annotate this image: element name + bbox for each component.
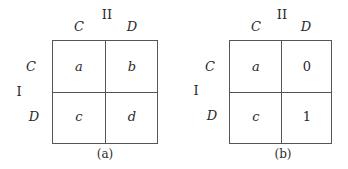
row-strategy-a-d: D	[24, 110, 44, 124]
col-strategy-b-c: C	[246, 20, 266, 34]
player-col-label-b: II	[272, 8, 292, 22]
player-row-label-a: I	[9, 85, 29, 99]
col-strategy-a-d: D	[122, 20, 142, 34]
row-strategy-b-c: C	[200, 60, 220, 74]
row-strategy-b-d: D	[202, 109, 222, 123]
cell-b-cd: 0	[297, 60, 317, 74]
cell-b-cc: a	[246, 60, 266, 74]
col-strategy-a-c: C	[69, 20, 89, 34]
col-strategy-b-d: D	[296, 20, 316, 34]
cell-a-dc: c	[69, 110, 89, 124]
cell-b-dd: 1	[297, 110, 317, 124]
caption-b: (b)	[268, 147, 298, 161]
matrix-b-horizontal-divider	[229, 92, 332, 93]
cell-a-dd: d	[122, 110, 142, 124]
row-strategy-a-c: C	[21, 60, 41, 74]
player-row-label-b: I	[186, 84, 206, 98]
caption-a: (a)	[90, 147, 120, 161]
cell-a-cc: a	[69, 60, 89, 74]
player-col-label-a: II	[97, 8, 117, 22]
matrix-a-horizontal-divider	[52, 92, 158, 93]
cell-b-dc: c	[246, 110, 266, 124]
cell-a-cd: b	[122, 60, 142, 74]
